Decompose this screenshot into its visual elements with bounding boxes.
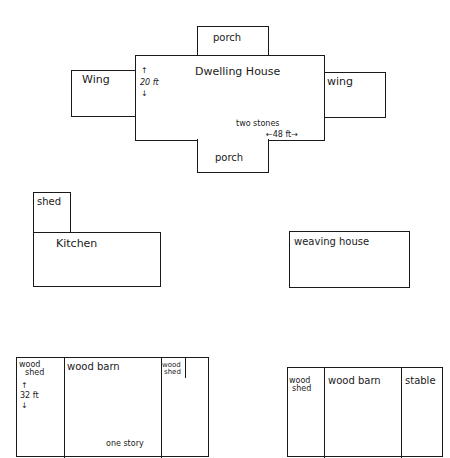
barn-left-divider-2: [161, 358, 162, 458]
arrow-left-icon: ←: [266, 130, 273, 139]
barn-right-divider-1: [324, 368, 325, 458]
shed: shed: [33, 192, 71, 234]
dwelling-house-label: Dwelling House: [195, 66, 280, 77]
kitchen-label: Kitchen: [56, 238, 97, 249]
barn-left-divider-1: [64, 358, 65, 458]
barn-right: wood shed wood barn stable: [287, 367, 443, 457]
arrow-down-icon: ↓: [21, 402, 28, 410]
wing-left-label: Wing: [82, 74, 110, 85]
barn-height-note: 32 ft: [20, 392, 39, 400]
barn-right-divider-2: [401, 368, 402, 458]
width-note: ←48 ft→: [266, 131, 298, 139]
barn-right-stable-label: stable: [405, 376, 436, 386]
arrow-up-icon: ↑: [21, 382, 28, 390]
porch-bottom-label: porch: [215, 153, 243, 163]
barn-right-woodshed-line2: shed: [292, 385, 311, 393]
height-note: 20 ft: [140, 79, 159, 87]
porch-bottom: porch: [197, 139, 269, 173]
porch-top: porch: [197, 26, 269, 57]
barn-left-divider-3: [185, 358, 186, 378]
arrow-down-icon: ↓: [141, 90, 148, 98]
wing-right-label: wing: [327, 76, 353, 87]
porch-top-label: porch: [213, 33, 241, 43]
barn-left-woodbarn-label: wood barn: [67, 362, 120, 372]
weaving-house: weaving house: [289, 231, 410, 288]
barn-left-woodshed-2-line2: shed: [164, 369, 181, 376]
wing-right: wing: [322, 72, 386, 118]
arrow-right-icon: →: [291, 130, 298, 139]
dwelling-house: Dwelling House ↑ 20 ft ↓ two stones ←48 …: [135, 55, 325, 141]
barn-stories-note: one story: [106, 440, 144, 448]
kitchen: Kitchen: [33, 232, 161, 287]
stories-note: two stones: [236, 120, 279, 128]
weaving-house-label: weaving house: [294, 237, 369, 247]
wing-left: Wing: [71, 70, 137, 117]
barn-left-woodshed-1-line2: shed: [25, 369, 44, 377]
barn-right-woodbarn-label: wood barn: [328, 376, 381, 386]
shed-label: shed: [37, 197, 61, 207]
arrow-up-icon: ↑: [141, 67, 148, 75]
barn-left: wood shed ↑ 32 ft ↓ wood barn one story …: [16, 357, 209, 457]
